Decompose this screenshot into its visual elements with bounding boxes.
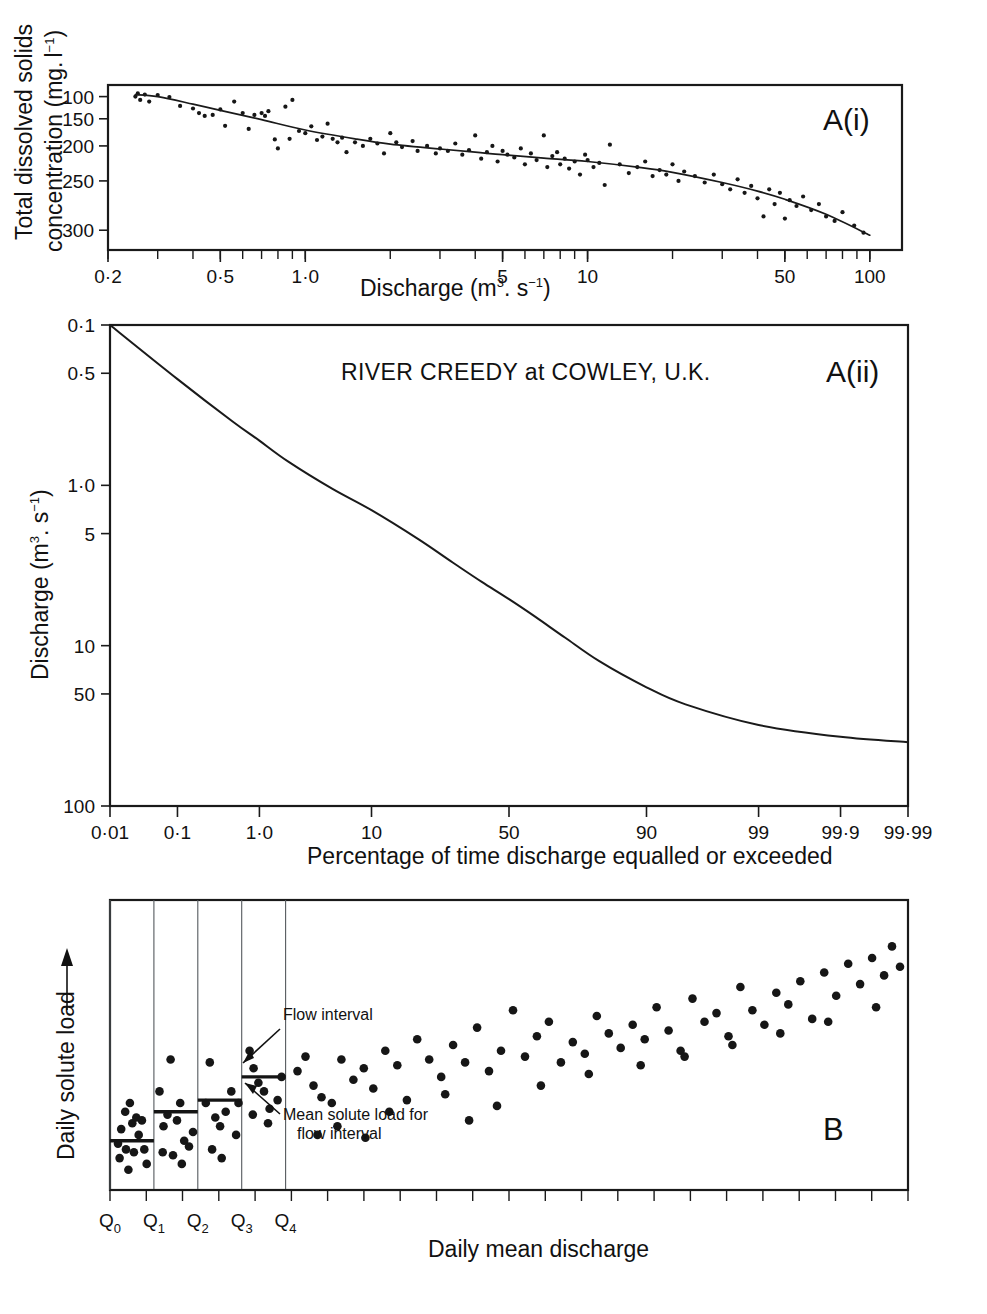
panel-a-i-data-point <box>223 124 227 128</box>
panel-a-ii-y-tick-label: 0·1 <box>68 315 95 336</box>
panel-b-ylabel: Daily solute load <box>53 991 79 1160</box>
panel-b-data-point <box>776 1029 785 1038</box>
panel-b-data-point <box>158 1148 167 1157</box>
panel-b-data-point <box>206 1058 215 1067</box>
panel-b-data-point <box>652 1003 661 1012</box>
panel-b-data-point <box>808 1015 817 1024</box>
panel-a-i-data-point <box>260 111 264 115</box>
panel-b-data-point <box>748 1006 757 1015</box>
panel-a-i-data-point <box>290 98 294 102</box>
panel-a-i-data-point <box>388 131 392 135</box>
panel-a-i-data-point <box>473 133 477 137</box>
panel-a-i-data-point <box>288 137 292 141</box>
panel-a-i-x-ticks <box>108 250 870 262</box>
panel-b-data-point <box>640 1035 649 1044</box>
panel-a-i-data-point <box>555 150 559 154</box>
panel-b-data-point <box>134 1131 143 1140</box>
panel-a-i-data-point <box>490 144 494 148</box>
panel-a-i-data-point <box>344 150 348 154</box>
panel-a-i-data-point <box>783 217 787 221</box>
panel-a-i-fit-curve <box>135 95 869 236</box>
panel-a-i-y-tick-labels: 300250200150100 <box>62 87 94 242</box>
panel-b-data-point <box>393 1061 402 1070</box>
panel-a-i-data-point <box>460 153 464 157</box>
panel-a-i-y-tick-label: 150 <box>62 109 94 130</box>
panel-b-data-point <box>227 1087 236 1096</box>
panel-b-data-point <box>533 1032 542 1041</box>
panel-b-xlabel: Daily mean discharge <box>428 1236 649 1262</box>
panel-a-i-data-point <box>583 153 587 157</box>
panel-a-i-data-point <box>416 149 420 153</box>
panel-a-i-data-point <box>627 171 631 175</box>
panel-a-i-data-point <box>743 191 747 195</box>
panel-a-i-data-point <box>578 173 582 177</box>
panel-b-data-point <box>537 1081 546 1090</box>
panel-b-data-point <box>628 1020 637 1029</box>
panel-a-i-data-point <box>326 122 330 126</box>
panel-a-i-data-point <box>523 162 527 166</box>
panel-a-i-data-point <box>567 167 571 171</box>
panel-a-i-data-point <box>840 210 844 214</box>
panel-b-data-point <box>700 1018 709 1027</box>
panel-a-ii-y-tick-labels: 100501051·00·50·1 <box>63 315 95 817</box>
panel-a-ii-letter: A(ii) <box>826 355 879 388</box>
panel-b-data-point <box>880 971 889 980</box>
panel-b-data-point <box>461 1058 470 1067</box>
panel-b-data-point <box>896 962 905 971</box>
panel-a-i-y-tick-label: 300 <box>62 220 94 241</box>
panel-b-q-label-0: Q0 <box>99 1210 121 1236</box>
panel-a-i-data-point <box>703 180 707 184</box>
panel-b-data-point <box>178 1160 187 1169</box>
panel-a-i-data-point <box>320 135 324 139</box>
panel-b-data-point <box>360 1064 369 1073</box>
panel-a-i-data-point <box>535 158 539 162</box>
panel-b-data-point <box>115 1154 124 1163</box>
panel-a-ii-x-tick-label: 90 <box>636 822 657 843</box>
panel-b-data-point <box>301 1052 310 1061</box>
panel-b-data-point <box>557 1058 566 1067</box>
panel-a-i-data-point <box>550 154 554 158</box>
panel-a-ii-y-ticks <box>101 325 110 806</box>
panel-b-data-point <box>485 1067 494 1076</box>
panel-b-data-point <box>760 1020 769 1029</box>
panel-a-i-x-tick-label: 0·5 <box>207 266 234 287</box>
panel-b-annotation-flow-interval: Flow interval <box>283 1006 373 1023</box>
panel-a-ii-y-tick-label: 5 <box>84 524 95 545</box>
panel-a-i-data-point <box>778 191 782 195</box>
panel-a-ii-flow-duration-curve <box>110 325 908 742</box>
panel-b-data-point <box>381 1047 390 1056</box>
panel-b-data-point <box>217 1154 226 1163</box>
panel-b-data-point <box>216 1122 225 1131</box>
panel-a-i-data-point <box>273 137 277 141</box>
panel-b-data-point <box>680 1052 689 1061</box>
panel-a-i-data-point <box>353 140 357 144</box>
panel-a-i-data-point <box>147 100 151 104</box>
panel-b-data-point <box>724 1032 733 1041</box>
panel-b-data-point <box>140 1145 149 1154</box>
panel-a-i-data-point <box>335 140 339 144</box>
panel-b-data-point <box>264 1119 273 1128</box>
panel-b-data-point <box>868 954 877 963</box>
panel-a-i-data-point <box>315 138 319 142</box>
panel-a-ii-y-tick-label: 100 <box>63 796 95 817</box>
panel-b-data-point <box>142 1160 151 1169</box>
panel-a-i-data-point <box>608 143 612 147</box>
panel-b-data-point <box>616 1044 625 1053</box>
panel-a-ii-y-tick-label: 0·5 <box>68 363 95 384</box>
panel-b-data-point <box>159 1122 168 1131</box>
panel-b-data-point <box>824 1018 833 1027</box>
panel-b-data-point <box>249 1064 258 1073</box>
panel-a-i-data-point <box>276 146 280 150</box>
panel-b-data-point <box>273 1096 282 1105</box>
panel-b-q-label-1: Q1 <box>143 1210 165 1236</box>
panel-a-i-x-tick-label: 50 <box>774 266 795 287</box>
panel-b-annotation-mean-line1: Mean solute load for <box>283 1106 429 1123</box>
panel-b-data-point <box>888 942 897 951</box>
panel-a-i-data-point <box>682 169 686 173</box>
panel-a-i-x-tick-label: 0·2 <box>94 266 121 287</box>
panel-b-data-point <box>437 1073 446 1082</box>
panel-a-i-data-point <box>303 131 307 135</box>
panel-b-data-point <box>317 1093 326 1102</box>
panel-a-i-data-point <box>736 177 740 181</box>
panel-a-i-data-point <box>643 159 647 163</box>
